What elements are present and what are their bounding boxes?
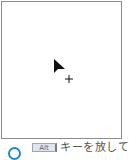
alt-key-label: Alt <box>32 143 57 152</box>
plus-icon <box>65 75 73 83</box>
drawing-canvas[interactable] <box>1 1 122 139</box>
instruction-text: キーを放して <box>60 142 125 152</box>
step-number-icon <box>8 147 21 152</box>
arrow-cursor-icon <box>54 59 66 75</box>
instruction-caption: Alt キーを放して <box>0 143 125 152</box>
